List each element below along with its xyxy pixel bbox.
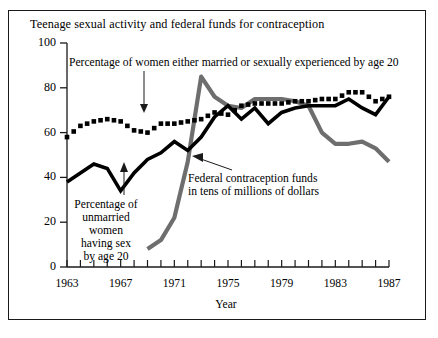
x-tick-label: 1983 [315, 277, 355, 290]
series-marker [367, 94, 372, 99]
x-axis-title: Year [196, 298, 256, 311]
series-marker [253, 101, 258, 106]
annotation-left-line5: by age 20 [60, 250, 152, 263]
series-marker [273, 101, 278, 106]
series-marker [145, 130, 150, 135]
series-marker [185, 119, 190, 124]
series-marker [159, 121, 164, 126]
annotation-federal-funds: Federal contraception funds in tens of m… [188, 172, 319, 198]
x-tick-label: 1987 [369, 277, 409, 290]
annotation-left-arrowhead [120, 162, 128, 172]
series-marker [360, 90, 365, 95]
series-marker [232, 108, 237, 113]
series-marker [239, 103, 244, 108]
series-marker [246, 102, 251, 107]
series-marker [333, 97, 338, 102]
annotation-mid-arrowhead [192, 153, 203, 162]
series-marker [199, 117, 204, 122]
series-marker [152, 126, 157, 131]
series-marker [179, 120, 184, 125]
series-marker [320, 97, 325, 102]
y-tick-label: 40 [22, 169, 56, 184]
series-marker [132, 128, 137, 133]
annotation-left-line1: Percentage of [60, 198, 152, 211]
series-marker [118, 119, 123, 124]
series-married-or-experienced [65, 90, 392, 139]
annotation-married-or-experienced: Percentage of women either married or se… [69, 56, 399, 69]
series-marker [112, 118, 117, 123]
annotation-left-line3: women [60, 224, 152, 237]
series-marker [380, 97, 385, 102]
series-marker [219, 111, 224, 116]
series-marker [65, 135, 70, 140]
series-marker [71, 129, 76, 134]
series-marker [212, 110, 217, 115]
series-marker [259, 101, 264, 106]
annotation-left-line4: having sex [60, 237, 152, 250]
annotation-top-arrowhead [140, 104, 148, 113]
y-tick-label: 20 [22, 214, 56, 229]
annotation-left-line2: unmarried [60, 211, 152, 224]
series-marker [165, 121, 170, 126]
annotation-mid-line1: Federal contraception funds [188, 172, 319, 185]
series-marker [299, 99, 304, 104]
series-marker [78, 124, 83, 129]
series-marker [373, 99, 378, 104]
series-marker [92, 119, 97, 124]
series-marker [340, 93, 345, 98]
series-marker [85, 121, 90, 126]
x-tick-label: 1979 [262, 277, 302, 290]
series-marker [125, 124, 130, 129]
series-marker [98, 118, 103, 123]
series-marker [279, 101, 284, 106]
series-marker [226, 112, 231, 117]
series-marker [326, 97, 331, 102]
series-marker [346, 90, 351, 95]
y-tick-label: 100 [22, 35, 56, 50]
series-marker [266, 101, 271, 106]
series-marker [306, 99, 311, 104]
series-marker [172, 121, 177, 126]
x-tick-label: 1963 [47, 277, 87, 290]
annotation-unmarried-having-sex: Percentage of unmarried women having sex… [60, 198, 152, 263]
series-marker [387, 94, 392, 99]
series-marker [293, 99, 298, 104]
series-marker [105, 117, 110, 122]
y-tick-label: 0 [22, 259, 56, 274]
series-marker [192, 118, 197, 123]
annotation-mid-line2: in tens of millions of dollars [188, 185, 319, 198]
series-marker [206, 114, 211, 119]
x-tick-label: 1967 [101, 277, 141, 290]
y-tick-label: 80 [22, 80, 56, 95]
series-marker [353, 90, 358, 95]
y-tick-label: 60 [22, 125, 56, 140]
series-marker [286, 100, 291, 105]
x-tick-label: 1975 [208, 277, 248, 290]
x-tick-label: 1971 [154, 277, 194, 290]
annotation-mid-leader [198, 158, 232, 170]
series-marker [313, 98, 318, 103]
series-marker [138, 129, 143, 134]
